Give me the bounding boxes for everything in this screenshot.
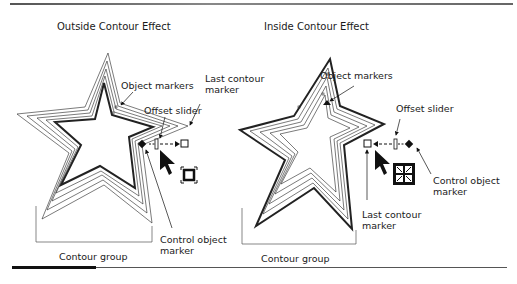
right-control-object-marker-label-1: Control object (433, 175, 500, 186)
left-control-object-marker-label-2: marker (160, 245, 194, 256)
right-control-object-marker-label-2: marker (433, 186, 467, 197)
control-object-marker-icon (138, 140, 146, 148)
contour-inside-cursor-icon (375, 150, 415, 185)
left-object-markers-label: Object markers (121, 80, 194, 91)
object-marker-icon (322, 93, 324, 95)
left-control-object-marker-label-1: Control object (160, 234, 227, 245)
left-last-contour-marker-label-1: Last contour (205, 73, 264, 84)
right-last-contour-marker-label-2: marker (362, 220, 396, 231)
contour-diagram (0, 0, 517, 284)
contour-outside-cursor-icon (160, 150, 197, 183)
left-contour-group-label: Contour group (59, 251, 128, 262)
last-contour-marker-icon (181, 140, 188, 147)
right-last-contour-marker-label-1: Last contour (362, 209, 421, 220)
inside-contour-group (240, 59, 384, 229)
bottom-rule-accent (12, 266, 96, 269)
offset-slider-icon (394, 139, 397, 149)
outside-contour-group (17, 53, 188, 223)
control-object-marker-icon (405, 140, 413, 148)
right-object-markers-label: Object markers (320, 70, 393, 81)
right-offset-slider-label: Offset slider (396, 103, 454, 114)
last-contour-marker-icon (364, 140, 371, 147)
inside-contour-controls (364, 139, 413, 149)
left-last-contour-marker-label-2: marker (205, 84, 239, 95)
right-contour-group-label: Contour group (261, 253, 330, 264)
offset-slider-icon (155, 139, 158, 149)
outside-contour-controls (138, 139, 188, 149)
left-offset-slider-label: Offset slider (144, 105, 202, 116)
